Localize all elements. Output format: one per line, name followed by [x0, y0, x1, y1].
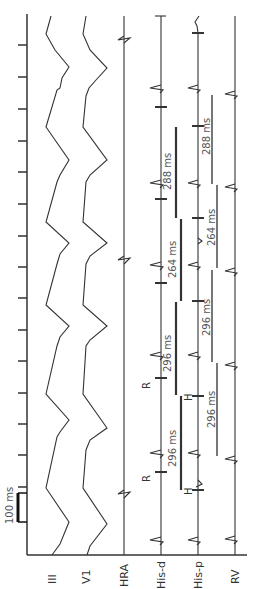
- h-marker: H: [183, 393, 194, 401]
- r-marker: R: [141, 475, 152, 482]
- his-d-interval-label: 264 ms: [167, 241, 178, 278]
- trace-rv: [225, 16, 237, 555]
- his-p-interval-label: 264 ms: [206, 209, 217, 246]
- channel-label-v1: V1: [80, 569, 93, 584]
- trace-v1: [83, 16, 107, 555]
- trace-hra: [118, 16, 130, 555]
- channel-label-rv: RV: [229, 569, 242, 584]
- his-d-interval-label: 288 ms: [162, 153, 173, 190]
- his-p-interval-label: 296 ms: [201, 299, 212, 336]
- electrogram-figure: [0, 0, 255, 589]
- his-d-interval-label: 296 ms: [162, 335, 173, 372]
- channel-label-his-p: His-p: [192, 561, 205, 589]
- his-p-interval-label: 296 ms: [206, 391, 217, 428]
- scale-bar-label: 100 ms: [4, 487, 15, 524]
- r-marker: R: [141, 382, 152, 389]
- channel-label-iii: III: [46, 574, 59, 584]
- trace-iii: [46, 16, 69, 555]
- channel-label-hra: HRA: [118, 564, 131, 587]
- his-d-interval-label: 296 ms: [167, 430, 178, 467]
- h-marker: H: [183, 487, 194, 495]
- trace-his-d: [150, 16, 167, 555]
- channel-label-his-d: His-d: [155, 561, 168, 589]
- trace-his-p: [188, 16, 204, 555]
- his-p-interval-label: 288 ms: [201, 118, 212, 155]
